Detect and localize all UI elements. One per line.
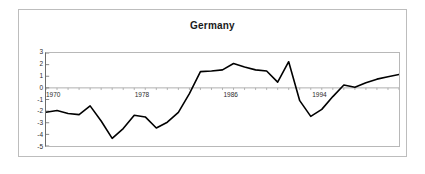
y-axis-tick-label: -1 <box>21 96 43 103</box>
y-axis-tick-labels: 3210-1-2-3-4-5 <box>19 52 43 147</box>
chart-title: Germany <box>19 20 406 31</box>
y-axis-tick-label: 2 <box>21 61 43 68</box>
y-axis-tick-label: -3 <box>21 120 43 127</box>
line-chart-svg <box>46 53 399 146</box>
data-series-line <box>46 62 399 139</box>
y-axis-tick-label: 1 <box>21 73 43 80</box>
y-axis-tick-label: -2 <box>21 108 43 115</box>
y-axis-tick-label: -4 <box>21 132 43 139</box>
chart-screenshot: Germany 3210-1-2-3-4-5 1970197819861994 <box>0 0 425 174</box>
y-axis-tick-label: 0 <box>21 84 43 91</box>
chart-frame: Germany 3210-1-2-3-4-5 1970197819861994 <box>18 9 407 157</box>
plot-area <box>45 52 400 147</box>
y-axis-tick-label: -5 <box>21 144 43 151</box>
y-axis-tick-label: 3 <box>21 49 43 56</box>
y-axis-ticks-group <box>46 53 49 146</box>
